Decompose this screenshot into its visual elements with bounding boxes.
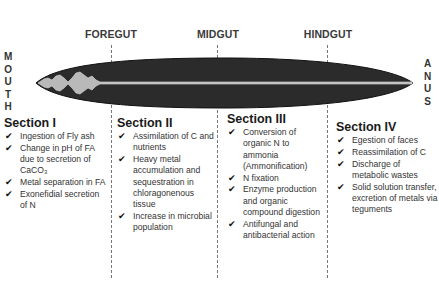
anus-label: A N U S — [424, 58, 431, 108]
anus-letter: A — [424, 58, 431, 71]
gut-illustration — [0, 0, 439, 120]
section-title: Section I — [4, 116, 108, 130]
check-icon: ✔ — [118, 154, 126, 165]
anus-letter: U — [424, 83, 431, 96]
section-list: ✔Conversion of organic N to ammonia (Amm… — [227, 127, 325, 241]
item-text: Enzyme production and organic compound d… — [243, 184, 320, 217]
list-item: ✔N fixation — [227, 173, 325, 184]
mouth-letter: M — [4, 51, 12, 64]
check-icon: ✔ — [337, 182, 345, 193]
section-2: Section II ✔Assimilation of C and nutrie… — [117, 116, 215, 234]
item-text: Reassimilation of C — [352, 147, 426, 157]
check-icon: ✔ — [118, 211, 126, 222]
list-item: ✔Solid solution transfer, excretion of m… — [336, 182, 438, 216]
mouth-letter: O — [4, 64, 12, 77]
mouth-label: M O U T H — [4, 51, 12, 114]
section-list: ✔Ingestion of Fly ash ✔Change in pH of F… — [4, 131, 108, 212]
check-icon: ✔ — [228, 127, 236, 138]
item-text: Discharge of metabolic wastes — [352, 159, 418, 180]
item-text: Egestion of faces — [352, 135, 418, 145]
section-list: ✔Egestion of faces ✔Reassimilation of C … — [336, 135, 438, 216]
list-item: ✔Reassimilation of C — [336, 147, 438, 158]
item-text: Conversion of organic N to ammonia (Ammo… — [243, 127, 307, 171]
mouth-letter: U — [5, 76, 12, 89]
item-text: Metal separation in FA — [20, 177, 106, 187]
item-text: Increase in microbial population — [133, 211, 212, 232]
check-icon: ✔ — [5, 177, 13, 188]
item-text: Solid solution transfer, excretion of me… — [352, 182, 438, 215]
list-item: ✔Metal separation in FA — [4, 177, 108, 188]
check-icon: ✔ — [5, 143, 13, 154]
list-item: ✔Assimilation of C and nutrients — [117, 131, 215, 154]
list-item: ✔Enzyme production and organic compound … — [227, 184, 325, 218]
check-icon: ✔ — [337, 159, 345, 170]
check-icon: ✔ — [228, 173, 236, 184]
check-icon: ✔ — [5, 189, 13, 200]
check-icon: ✔ — [337, 135, 345, 146]
item-text: Ingestion of Fly ash — [20, 131, 95, 141]
item-text: N fixation — [243, 173, 279, 183]
section-1: Section I ✔Ingestion of Fly ash ✔Change … — [4, 116, 108, 212]
check-icon: ✔ — [228, 219, 236, 230]
list-item: ✔Exonefidial secretion of N — [4, 189, 108, 212]
section-title: Section III — [227, 112, 325, 126]
item-text: Antifungal and antibacterial action — [243, 219, 315, 240]
item-text: Assimilation of C and nutrients — [133, 131, 214, 152]
check-icon: ✔ — [118, 131, 126, 142]
section-3: Section III ✔Conversion of organic N to … — [227, 112, 325, 242]
list-item: ✔Heavy metal accumulation and sequestrat… — [117, 154, 215, 210]
list-item: ✔Change in pH of FA due to secretion of … — [4, 143, 108, 177]
section-4: Section IV ✔Egestion of faces ✔Reassimil… — [336, 120, 438, 216]
check-icon: ✔ — [5, 131, 13, 142]
check-icon: ✔ — [337, 147, 345, 158]
check-icon: ✔ — [228, 184, 236, 195]
section-title: Section IV — [336, 120, 438, 134]
list-item: ✔Egestion of faces — [336, 135, 438, 146]
section-list: ✔Assimilation of C and nutrients ✔Heavy … — [117, 131, 215, 234]
list-item: ✔Ingestion of Fly ash — [4, 131, 108, 142]
list-item: ✔Discharge of metabolic wastes — [336, 159, 438, 182]
item-text: Heavy metal accumulation and sequestrati… — [133, 154, 200, 209]
mouth-letter: T — [5, 89, 11, 102]
anus-letter: N — [424, 71, 431, 84]
mouth-letter: H — [5, 101, 12, 114]
list-item: ✔Conversion of organic N to ammonia (Amm… — [227, 127, 325, 172]
item-text: Exonefidial secretion of N — [20, 189, 99, 210]
item-text: Change in pH of FA due to secretion of C… — [20, 143, 95, 176]
section-title: Section II — [117, 116, 215, 130]
list-item: ✔Increase in microbial population — [117, 211, 215, 234]
anus-letter: S — [424, 96, 431, 109]
list-item: ✔Antifungal and antibacterial action — [227, 219, 325, 242]
